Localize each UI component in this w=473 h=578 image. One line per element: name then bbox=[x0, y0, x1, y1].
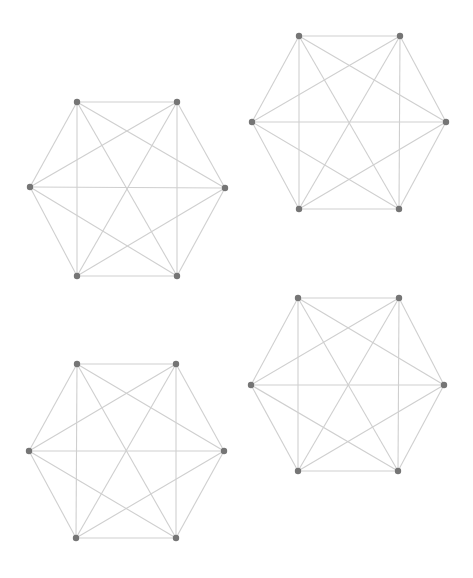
graph-edge bbox=[77, 102, 225, 188]
graph-edge bbox=[251, 298, 399, 385]
graph-diagram-canvas bbox=[0, 0, 473, 578]
graph-edge bbox=[176, 451, 224, 538]
graph-edge bbox=[176, 364, 224, 451]
graph-edge bbox=[29, 451, 176, 538]
graph-edge bbox=[29, 451, 76, 538]
graph-vertex bbox=[74, 99, 80, 105]
k6-graph-bottom-right bbox=[248, 295, 447, 474]
graph-edge bbox=[251, 385, 298, 471]
graph-edge bbox=[399, 122, 446, 209]
graph-edge bbox=[252, 36, 299, 122]
graph-vertex bbox=[74, 273, 80, 279]
graph-edge bbox=[252, 122, 399, 209]
graph-vertex bbox=[441, 382, 447, 388]
graph-vertex bbox=[295, 468, 301, 474]
k6-graph-top-right bbox=[249, 33, 449, 212]
graph-edge bbox=[29, 364, 176, 451]
graph-vertex bbox=[27, 184, 33, 190]
graph-edge bbox=[30, 102, 77, 187]
graph-vertex bbox=[221, 448, 227, 454]
graph-edge bbox=[30, 187, 177, 276]
graph-edge bbox=[177, 188, 225, 276]
graph-edge bbox=[76, 451, 224, 538]
graph-vertex bbox=[396, 206, 402, 212]
graph-vertex bbox=[443, 119, 449, 125]
graph-vertex bbox=[295, 295, 301, 301]
graph-vertex bbox=[174, 99, 180, 105]
k6-graph-bottom-left bbox=[26, 361, 227, 541]
graph-vertex bbox=[173, 535, 179, 541]
graph-vertex bbox=[73, 535, 79, 541]
graph-vertex bbox=[248, 382, 254, 388]
graph-edge bbox=[77, 188, 225, 276]
graph-vertex bbox=[296, 33, 302, 39]
graph-edge bbox=[398, 385, 444, 471]
graph-vertex bbox=[395, 468, 401, 474]
graph-vertex bbox=[397, 33, 403, 39]
graph-edge bbox=[298, 385, 444, 471]
graph-edge bbox=[251, 298, 298, 385]
graph-edge bbox=[177, 102, 225, 188]
graph-edge bbox=[29, 364, 77, 451]
graph-edge bbox=[251, 385, 398, 471]
graph-edge bbox=[252, 122, 299, 209]
graph-vertex bbox=[174, 273, 180, 279]
k6-graph-top-left bbox=[27, 99, 228, 279]
graph-vertex bbox=[26, 448, 32, 454]
graph-vertex bbox=[249, 119, 255, 125]
graph-edge bbox=[299, 36, 446, 122]
graph-edge bbox=[30, 187, 225, 188]
graph-vertex bbox=[222, 185, 228, 191]
graph-edge bbox=[299, 122, 446, 209]
graph-vertex bbox=[74, 361, 80, 367]
graph-vertex bbox=[396, 295, 402, 301]
graph-vertex bbox=[296, 206, 302, 212]
graph-vertex bbox=[173, 361, 179, 367]
graph-edge bbox=[30, 187, 77, 276]
graph-edge bbox=[30, 102, 177, 187]
graph-edge bbox=[252, 36, 400, 122]
